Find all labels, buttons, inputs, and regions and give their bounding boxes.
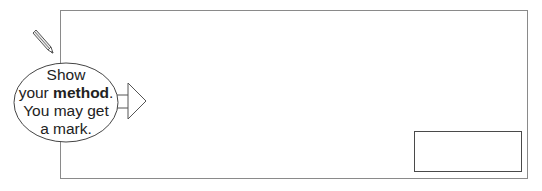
hint-line-2: your method. — [14, 84, 118, 102]
arrow-right-icon — [117, 83, 146, 119]
hint-bubble: Show your method. You may get a mark. — [14, 66, 118, 138]
pencil-icon — [33, 30, 53, 53]
hint-line-2-prefix: your — [19, 84, 53, 101]
answer-box[interactable] — [414, 131, 522, 172]
hint-line-2-suffix: . — [109, 84, 113, 101]
hint-emphasis-method: method — [53, 84, 109, 101]
hint-line-4: a mark. — [14, 120, 118, 138]
hint-line-1: Show — [14, 66, 118, 84]
hint-line-3: You may get — [14, 102, 118, 120]
